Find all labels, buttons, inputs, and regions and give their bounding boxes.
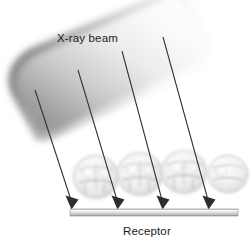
xray-geometry-figure: X-ray beam Receptor xyxy=(0,0,251,246)
molar-1 xyxy=(74,156,119,199)
x-ray-beam-label: X-ray beam xyxy=(57,33,118,45)
receptor-bar xyxy=(70,209,238,216)
molar-2 xyxy=(118,153,163,196)
receptor-label: Receptor xyxy=(123,226,171,238)
molar-4 xyxy=(208,155,248,193)
figure-canvas xyxy=(0,0,251,246)
x-ray-beam-band xyxy=(8,0,226,141)
molar-teeth-group xyxy=(74,151,249,199)
